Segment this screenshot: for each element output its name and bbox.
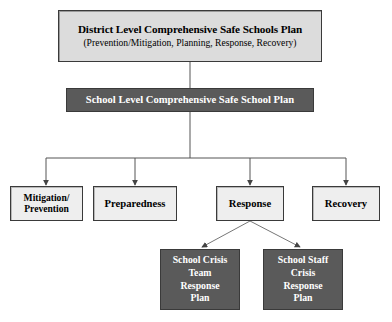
node-school-level-plan-content: School Level Comprehensive Safe School P… [67,94,313,106]
school-plan-title: School Level Comprehensive Safe School P… [71,94,309,106]
node-recovery[interactable]: Recovery [312,186,380,221]
mitigation-label-line-1: Mitigation/ [15,193,78,204]
node-mitigation-prevention[interactable]: Mitigation/ Prevention [10,186,83,221]
crisis-team-label-line-3: Response [165,280,235,293]
connector-response-to-staff-crisis [250,221,300,247]
node-response[interactable]: Response [216,186,284,221]
node-school-staff-crisis-response-plan[interactable]: School Staff Crisis Response Plan [263,249,343,310]
staff-crisis-label-line-3: Response [268,280,338,293]
node-response-content: Response [217,198,283,210]
recovery-label: Recovery [317,198,375,210]
staff-crisis-label-line-2: Crisis [268,267,338,280]
response-label: Response [221,198,279,210]
org-chart-diagram: District Level Comprehensive Safe School… [0,0,392,322]
node-district-level-plan-content: District Level Comprehensive Safe School… [59,23,321,49]
node-school-crisis-team-response-plan-content: School Crisis Team Response Plan [161,254,239,304]
node-school-crisis-team-response-plan[interactable]: School Crisis Team Response Plan [160,249,240,310]
node-district-level-plan[interactable]: District Level Comprehensive Safe School… [58,10,322,62]
node-recovery-content: Recovery [313,198,379,210]
crisis-team-label-line-2: Team [165,267,235,280]
node-mitigation-prevention-content: Mitigation/ Prevention [11,193,82,214]
node-preparedness-content: Preparedness [94,198,176,210]
mitigation-label-line-2: Prevention [15,204,78,215]
staff-crisis-label-line-1: School Staff [268,254,338,267]
node-preparedness[interactable]: Preparedness [93,186,177,221]
node-school-level-plan[interactable]: School Level Comprehensive Safe School P… [66,88,314,112]
preparedness-label: Preparedness [98,198,172,210]
district-plan-subtitle: (Prevention/Mitigation, Planning, Respon… [63,38,317,49]
node-school-staff-crisis-response-plan-content: School Staff Crisis Response Plan [264,254,342,304]
staff-crisis-label-line-4: Plan [268,292,338,305]
district-plan-title: District Level Comprehensive Safe School… [63,23,317,36]
connector-response-to-crisis-team [202,221,250,247]
crisis-team-label-line-1: School Crisis [165,254,235,267]
crisis-team-label-line-4: Plan [165,292,235,305]
